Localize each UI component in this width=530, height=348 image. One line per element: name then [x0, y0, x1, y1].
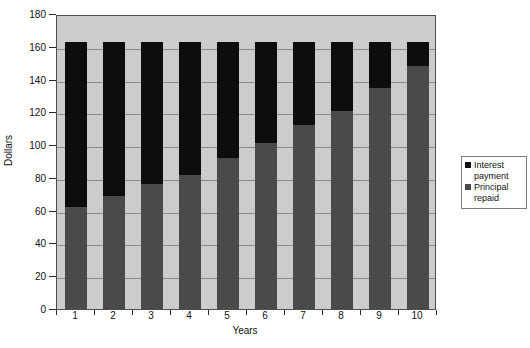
bar-segment-principal	[179, 175, 201, 309]
x-axis-tick-label: 7	[288, 310, 318, 321]
bar-segment-interest	[141, 42, 163, 185]
x-axis-tick-label: 2	[98, 310, 128, 321]
bar-segment-interest	[103, 42, 125, 196]
bar-slot	[293, 16, 315, 309]
bar-segment-principal	[65, 207, 87, 309]
y-axis-tick-label: 60	[35, 206, 46, 218]
y-axis-tick: 0	[0, 304, 56, 316]
legend-item-interest: Interest payment	[465, 160, 524, 182]
bar-segment-principal	[407, 66, 429, 309]
x-axis-tick-label: 4	[174, 310, 204, 321]
y-axis-tick-mark	[49, 309, 56, 310]
y-axis-tick-mark	[49, 276, 56, 277]
bar-segment-principal	[369, 88, 391, 309]
y-axis-tick-label: 180	[29, 9, 46, 21]
bar-segment-principal	[103, 196, 125, 309]
x-axis-tick-label: 8	[326, 310, 356, 321]
legend-label-interest-line2: payment	[474, 171, 509, 181]
bar-segment-interest	[331, 42, 353, 111]
bar-slot	[331, 16, 353, 309]
chart-legend: Interest payment Principal repaid	[461, 156, 527, 209]
chart-figure: Dollars 020406080100120140160180 1234567…	[0, 0, 530, 348]
bar-segment-principal	[255, 143, 277, 309]
y-axis-tick-mark	[49, 211, 56, 212]
y-axis-tick-label: 40	[35, 238, 46, 250]
legend-label-interest: Interest payment	[474, 160, 524, 182]
x-axis-tick-mark	[436, 310, 437, 315]
x-axis-tick-label: 5	[212, 310, 242, 321]
bar-slot	[255, 16, 277, 309]
bar-segment-interest	[293, 42, 315, 126]
y-axis-tick: 40	[0, 238, 56, 250]
y-axis-tick: 100	[0, 140, 56, 152]
x-axis-tick-mark	[284, 310, 285, 315]
x-axis-tick-mark	[94, 310, 95, 315]
x-axis-tick-mark	[398, 310, 399, 315]
legend-label-principal-line2: repaid	[474, 193, 499, 203]
x-axis-tick-mark	[208, 310, 209, 315]
bar-group	[57, 16, 435, 309]
y-axis-tick-mark	[49, 112, 56, 113]
x-axis-tick-label: 6	[250, 310, 280, 321]
y-axis-tick-label: 140	[29, 75, 46, 87]
legend-label-interest-line1: Interest	[474, 160, 504, 170]
x-axis-tick-label: 3	[136, 310, 166, 321]
y-axis-tick: 120	[0, 107, 56, 119]
x-axis-title: Years	[0, 325, 490, 336]
y-axis-tick-mark	[49, 178, 56, 179]
bar-slot	[65, 16, 87, 309]
legend-label-principal: Principal repaid	[474, 182, 524, 204]
y-axis-tick-label: 0	[40, 304, 46, 316]
x-axis-tick-label: 10	[402, 310, 432, 321]
y-axis-tick: 60	[0, 206, 56, 218]
x-axis-tick-label: 9	[364, 310, 394, 321]
bar-segment-interest	[65, 42, 87, 208]
y-axis-tick-label: 100	[29, 140, 46, 152]
y-axis-tick-label: 160	[29, 42, 46, 54]
y-axis-tick-mark	[49, 14, 56, 15]
y-axis-tick: 80	[0, 173, 56, 185]
x-axis-tick-label: 1	[60, 310, 90, 321]
legend-swatch-principal	[465, 184, 471, 190]
x-axis-tick-mark	[322, 310, 323, 315]
bar-segment-principal	[141, 184, 163, 309]
y-axis-tick: 20	[0, 271, 56, 283]
plot-area	[56, 15, 436, 310]
x-axis-tick-mark	[56, 310, 57, 315]
bar-segment-interest	[217, 42, 239, 158]
y-axis-tick-label: 80	[35, 173, 46, 185]
bar-slot	[407, 16, 429, 309]
legend-label-principal-line1: Principal	[474, 182, 509, 192]
bar-slot	[369, 16, 391, 309]
x-axis-tick-mark	[360, 310, 361, 315]
bar-slot	[103, 16, 125, 309]
bar-segment-principal	[331, 111, 353, 309]
bar-slot	[179, 16, 201, 309]
y-axis-tick: 140	[0, 75, 56, 87]
y-axis-tick-mark	[49, 145, 56, 146]
y-axis-tick: 160	[0, 42, 56, 54]
bar-slot	[217, 16, 239, 309]
bar-segment-principal	[217, 158, 239, 309]
bar-slot	[141, 16, 163, 309]
y-axis-tick-mark	[49, 243, 56, 244]
bar-segment-interest	[255, 42, 277, 144]
y-axis-tick-mark	[49, 47, 56, 48]
x-axis-tick-mark	[170, 310, 171, 315]
bar-segment-interest	[179, 42, 201, 175]
y-axis-tick-mark	[49, 80, 56, 81]
bar-segment-principal	[293, 125, 315, 309]
bar-segment-interest	[407, 42, 429, 67]
y-axis-tick: 180	[0, 9, 56, 21]
bar-segment-interest	[369, 42, 391, 88]
y-axis-tick-label: 120	[29, 107, 46, 119]
legend-item-principal: Principal repaid	[465, 182, 524, 204]
legend-swatch-interest	[465, 162, 471, 168]
x-axis-tick-mark	[246, 310, 247, 315]
x-axis-tick-mark	[132, 310, 133, 315]
y-axis-tick-label: 20	[35, 271, 46, 283]
